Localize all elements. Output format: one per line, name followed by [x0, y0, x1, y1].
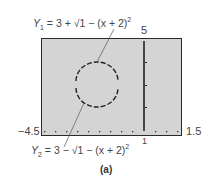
graph-plot — [0, 0, 207, 191]
xmin-label: −4.5 — [18, 125, 40, 137]
curve-y2 — [76, 88, 118, 107]
curve-y1 — [76, 62, 118, 81]
figure-caption: (a) — [100, 164, 112, 175]
y-axis-ticks — [145, 62, 147, 108]
eq-y2-rhs: = 3 − √1 − (x + 2) — [42, 144, 125, 156]
xtick-label: 1 — [142, 136, 147, 146]
eq-y2-lhs: Y — [31, 144, 38, 156]
xmax-label: 1.5 — [186, 125, 201, 137]
eq-y2-sup: 2 — [125, 143, 129, 150]
leader-line-y2 — [64, 103, 84, 147]
x-axis-dots — [44, 131, 178, 132]
equation-y2: Y2 = 3 − √1 − (x + 2)2 — [31, 143, 129, 158]
leader-line-y1 — [97, 29, 114, 62]
